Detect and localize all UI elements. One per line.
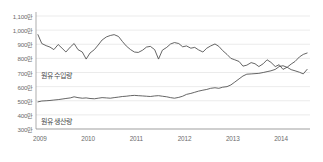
x-axis-tick-label: 2012 <box>178 135 192 142</box>
axis-lines <box>36 12 310 129</box>
x-axis-tick-label: 2010 <box>81 135 95 142</box>
gridlines <box>36 16 310 129</box>
y-axis-tick-label: 800만 <box>17 54 33 63</box>
series-paths <box>38 35 307 102</box>
y-axis-tick-label: 300만 <box>17 125 33 134</box>
plot-area <box>36 16 310 129</box>
x-axis-tick-label: 2009 <box>33 135 47 142</box>
series-line-production <box>38 66 307 102</box>
x-axis-tick-label: 2014 <box>274 135 288 142</box>
x-axis-tick-label: 2011 <box>130 135 143 142</box>
y-axis: 1,100만1,000만900만800만700만600만500만400만300만 <box>0 0 33 162</box>
series-label-production: 원유 생산량 <box>41 116 72 126</box>
y-axis-tick-label: 700만 <box>17 68 33 77</box>
y-axis-tick-label: 1,000만 <box>13 26 33 35</box>
y-axis-tick-label: 600만 <box>17 82 33 91</box>
x-axis-tick-label: 2013 <box>226 135 240 142</box>
series-label-imports: 원유 수입량 <box>41 70 72 80</box>
x-axis: 200920102011201220132014 <box>36 131 310 149</box>
y-axis-tick-label: 900만 <box>17 40 33 49</box>
crude-oil-line-chart: 1,100만1,000만900만800만700만600만500만400만300만… <box>0 0 323 162</box>
y-axis-tick-label: 1,100만 <box>13 12 33 21</box>
plot-svg <box>36 16 310 129</box>
y-axis-tick-label: 400만 <box>17 110 33 119</box>
y-axis-tick-label: 500만 <box>17 96 33 105</box>
series-line-imports <box>38 35 307 70</box>
